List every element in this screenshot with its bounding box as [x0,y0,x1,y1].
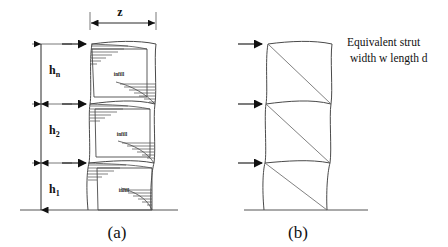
bay-width-label-z: z [117,5,123,19]
strut-annotation-line-2: width w length d [350,52,428,65]
infill-label-2: infill [117,131,128,137]
strut-annotation-line-1: Equivalent strut [347,36,421,49]
caption-panel-b: (b) [288,223,308,242]
figure-container: hn h2 h1 z [0,0,448,247]
diagram-svg: hn h2 h1 z [0,0,448,247]
infill-label-3: infill [114,71,125,77]
caption-panel-a: (a) [108,223,127,242]
